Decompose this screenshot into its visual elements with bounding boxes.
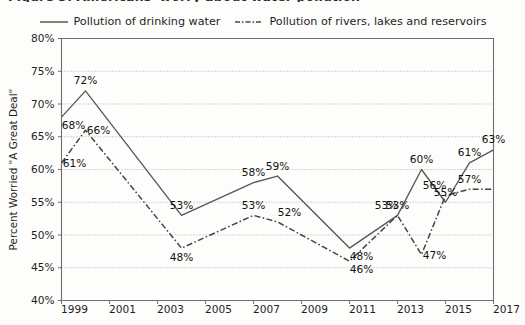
point-labels-group: 68%72%53%58%59%48%53%60%55%61%63%61%66%4… [62, 74, 506, 274]
y-axis-tick-label: 40% [31, 294, 55, 306]
data-point-label: 53% [386, 199, 410, 211]
y-axis-tick-label: 75% [31, 65, 55, 77]
y-axis-tick-label: 60% [31, 163, 55, 175]
x-tick-labels-group: 1999200120032005200720092011201320152017 [61, 303, 520, 315]
data-point-label: 56% [423, 179, 447, 191]
x-axis-tick-label: 2017 [493, 303, 520, 315]
y-axis-tick-label: 45% [31, 261, 55, 273]
x-axis-tick-label: 2011 [349, 303, 376, 315]
series-line [62, 130, 494, 261]
data-point-label: 72% [74, 74, 98, 86]
y-axis-title: Percent Worried "A Great Deal" [7, 89, 19, 251]
x-axis-tick-label: 2009 [301, 303, 328, 315]
y-axis-tick-label: 55% [31, 196, 55, 208]
data-point-label: 53% [242, 199, 266, 211]
data-point-label: 59% [266, 160, 290, 172]
y-axis-tick-label: 65% [31, 130, 55, 142]
x-axis-tick-label: 2001 [109, 303, 136, 315]
data-point-label: 63% [482, 133, 506, 145]
figure-container: Figure 3. Americans' worry about water p… [0, 0, 525, 325]
series-group [62, 91, 494, 261]
line-chart-plot: 80%75%70%65%60%55%50%45%40% 199920012003… [0, 0, 525, 325]
data-point-label: 47% [423, 249, 447, 261]
data-point-label: 52% [278, 206, 302, 218]
y-axis-tick-label: 70% [31, 98, 55, 110]
data-point-label: 53% [170, 199, 194, 211]
data-point-label: 57% [458, 173, 482, 185]
data-point-label: 46% [350, 263, 374, 275]
data-point-label: 61% [458, 146, 482, 158]
data-point-label: 60% [410, 153, 434, 165]
x-axis-tick-label: 2007 [253, 303, 280, 315]
data-point-label: 48% [170, 251, 194, 263]
data-point-label: 68% [62, 119, 86, 131]
data-point-label: 66% [87, 124, 111, 136]
x-axis-tick-label: 1999 [61, 303, 88, 315]
data-point-label: 58% [242, 166, 266, 178]
y-axis-tick-label: 80% [31, 32, 55, 44]
y-axis-tick-label: 50% [31, 229, 55, 241]
y-tick-labels-group: 80%75%70%65%60%55%50%45%40% [31, 32, 55, 306]
x-axis-tick-label: 2005 [205, 303, 232, 315]
x-axis-tick-label: 2015 [445, 303, 472, 315]
data-point-label: 48% [350, 250, 374, 262]
x-axis-tick-label: 2003 [157, 303, 184, 315]
y-axis-title-group: Percent Worried "A Great Deal" [7, 89, 19, 251]
data-point-label: 61% [63, 157, 87, 169]
x-axis-tick-label: 2013 [397, 303, 424, 315]
